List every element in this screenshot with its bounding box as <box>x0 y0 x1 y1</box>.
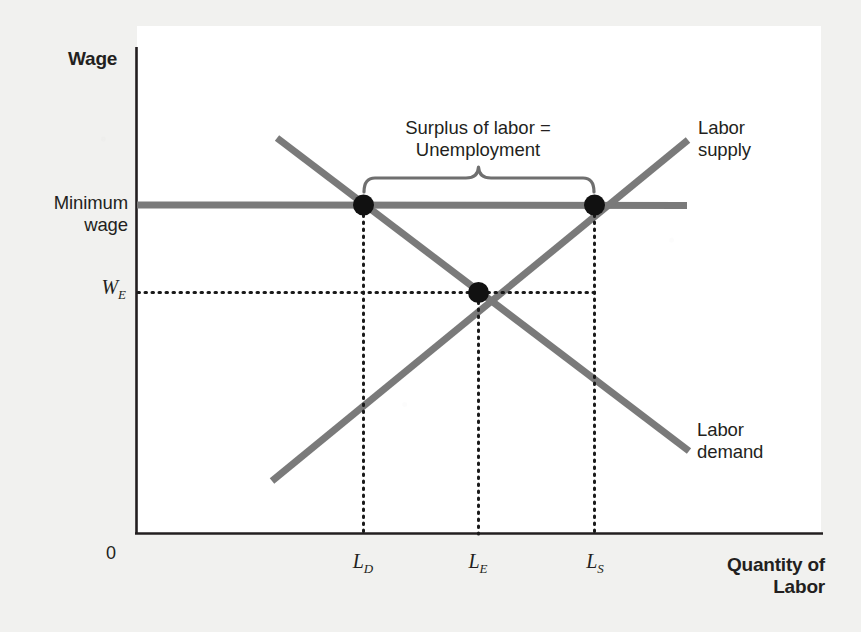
minimum-wage-label: Minimum wage <box>28 192 128 236</box>
x-tick-le-letter: L <box>468 550 479 572</box>
y-axis-title: Wage <box>68 48 117 70</box>
x-tick-le: LE <box>453 550 503 576</box>
origin-label: 0 <box>96 543 126 564</box>
point-equilibrium <box>468 282 489 303</box>
point-ls <box>584 195 605 216</box>
x-axis-title: Quantity of Labor <box>640 554 825 599</box>
point-ld <box>353 195 374 216</box>
x-tick-le-subscript: E <box>480 561 488 576</box>
x-tick-ls: LS <box>570 550 620 576</box>
x-tick-ls-subscript: S <box>597 561 604 576</box>
surplus-brace <box>364 167 594 192</box>
x-tick-ld: LD <box>338 550 388 576</box>
equilibrium-wage-letter: W <box>101 276 118 298</box>
equilibrium-wage-subscript: E <box>118 287 126 302</box>
x-tick-ld-letter: L <box>353 550 364 572</box>
equilibrium-wage-label: WE <box>60 276 126 302</box>
x-tick-ld-subscript: D <box>364 561 373 576</box>
labor-demand-label: Labor demand <box>697 419 763 463</box>
x-tick-ls-letter: L <box>586 550 597 572</box>
surplus-annotation: Surplus of labor = Unemployment <box>358 117 598 161</box>
labor-market-figure: Wage Quantity of Labor Minimum wage WE 0… <box>0 0 861 632</box>
labor-supply-label: Labor supply <box>698 117 751 161</box>
chart-canvas <box>0 0 861 632</box>
